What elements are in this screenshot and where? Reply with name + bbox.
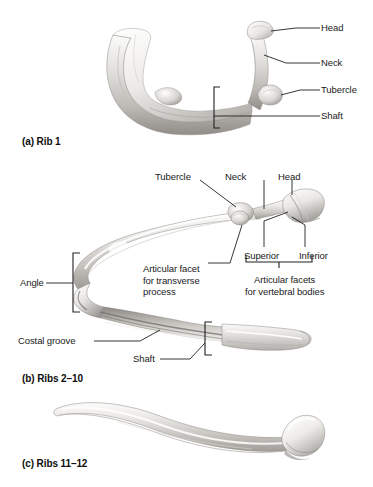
panel-a-label-head: Head xyxy=(321,22,343,34)
panel-b-label-angle: Angle xyxy=(20,277,44,289)
panel-a-caption: (a) Rib 1 xyxy=(22,136,61,147)
panel-b-label-shaft: Shaft xyxy=(133,353,155,365)
rib-11-12-bone xyxy=(54,403,325,460)
panel-b-label-inferior: Inferior xyxy=(299,250,328,262)
panel-b-label-costal-groove: Costal groove xyxy=(18,335,75,347)
panel-b-label-superior: Superior xyxy=(244,250,279,262)
rib-1-bone xyxy=(107,21,283,135)
panel-c-caption: (c) Ribs 11–12 xyxy=(22,458,87,469)
panel-b-label-head: Head xyxy=(278,171,300,183)
panel-b-label-tubercle: Tubercle xyxy=(155,171,191,183)
panel-b-label-articular-facet-transverse: Articular facet for transverse process xyxy=(143,263,200,298)
panel-a-label-neck: Neck xyxy=(321,57,342,69)
panel-b-label-neck: Neck xyxy=(225,171,246,183)
panel-c-illustration xyxy=(0,388,373,487)
rib-anatomy-figure: Head Neck Tubercle Shaft (a) Rib 1 xyxy=(0,0,373,487)
panel-a-label-tubercle: Tubercle xyxy=(321,84,357,96)
panel-b-label-articular-facets-vertebral: Articular facets for vertebral bodies xyxy=(245,274,324,297)
panel-a-label-shaft: Shaft xyxy=(321,110,343,122)
panel-b-caption: (b) Ribs 2–10 xyxy=(22,373,83,384)
